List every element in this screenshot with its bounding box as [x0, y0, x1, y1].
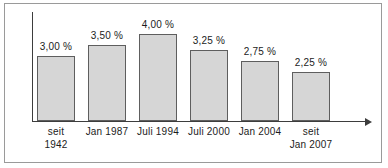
chart-figure: 3,00 % seit 1942 3,50 % Jan 1987 4,00 % …	[4, 3, 382, 163]
bar-value-label: 2,25 %	[295, 57, 327, 68]
bar-group: 3,25 % Juli 2000	[190, 12, 228, 121]
bar-rect[interactable]	[88, 45, 126, 121]
bar-category-line: 1942	[44, 138, 67, 151]
bar-rect[interactable]	[37, 56, 75, 121]
bar-group: 2,75 % Jan 2004	[241, 12, 279, 121]
bar-category-line: Jan 2007	[290, 138, 333, 151]
x-axis-arrow-icon	[365, 118, 372, 126]
bar-value-label: 3,00 %	[40, 41, 72, 52]
bar-category-label: Jan 1987	[86, 125, 129, 138]
bar-value-label: 2,75 %	[244, 46, 276, 57]
bar-value-label: 3,25 %	[193, 35, 225, 46]
bar-category-label: seit 1942	[44, 125, 67, 151]
bar-category-label: seit Jan 2007	[290, 125, 333, 151]
bar-rect[interactable]	[292, 72, 330, 121]
y-axis-line	[32, 12, 33, 121]
bar-value-label: 3,50 %	[91, 30, 123, 41]
bar-category-line: Juli 2000	[188, 125, 230, 138]
bar-category-line: Jan 2004	[239, 125, 282, 138]
bar-chart-plot-area: 3,00 % seit 1942 3,50 % Jan 1987 4,00 % …	[5, 4, 381, 162]
bar-value-label: 4,00 %	[142, 19, 174, 30]
bar-rect[interactable]	[190, 50, 228, 121]
bar-category-label: Jan 2004	[239, 125, 282, 138]
bar-category-line: Jan 1987	[86, 125, 129, 138]
bar-rect[interactable]	[241, 61, 279, 121]
bar-category-line: seit	[290, 125, 333, 138]
bar-group: 3,00 % seit 1942	[37, 12, 75, 121]
bar-category-line: Juli 1994	[137, 125, 179, 138]
bar-category-line: seit	[44, 125, 67, 138]
bar-group: 2,25 % seit Jan 2007	[292, 12, 330, 121]
bar-rect[interactable]	[139, 34, 177, 121]
x-axis-line	[32, 121, 365, 122]
bar-category-label: Juli 2000	[188, 125, 230, 138]
bar-group: 3,50 % Jan 1987	[88, 12, 126, 121]
bar-category-label: Juli 1994	[137, 125, 179, 138]
bar-group: 4,00 % Juli 1994	[139, 12, 177, 121]
